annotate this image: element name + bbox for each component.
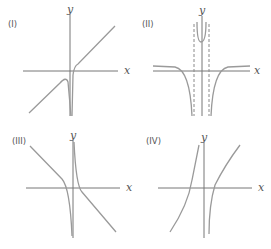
x-axis-label-4: x <box>258 181 265 194</box>
y-axis-label-4: y <box>200 131 208 144</box>
x-axis-label-3: x <box>126 181 133 194</box>
curve-3-right <box>74 142 116 232</box>
panel-label-1: (I) <box>8 19 17 29</box>
y-axis-label-1: y <box>66 3 74 16</box>
curve-3-left <box>30 146 72 236</box>
panel-label-3: (III) <box>12 136 26 146</box>
panel-label-4: (IV) <box>146 136 161 146</box>
curve-4-right <box>209 145 240 234</box>
graphs-canvas: (I) y x (II) y x (III) y x (IV) y x <box>0 0 271 249</box>
curve-2-right <box>211 66 250 116</box>
y-axis-label-3: y <box>69 129 77 142</box>
panel-label-2: (II) <box>142 19 154 29</box>
panel-2: (II) y x <box>142 4 261 116</box>
x-axis-label-1: x <box>124 64 131 77</box>
x-axis-label-2: x <box>254 64 261 77</box>
curve-2-left <box>153 66 192 116</box>
panel-3: (III) y x <box>12 129 133 238</box>
panel-4: (IV) y x <box>146 131 265 238</box>
y-axis-label-2: y <box>198 4 206 17</box>
function-graphs-figure: (I) y x (II) y x (III) y x (IV) y x <box>0 0 271 249</box>
curve-1-left <box>29 79 71 116</box>
panel-1: (I) y x <box>8 3 131 116</box>
